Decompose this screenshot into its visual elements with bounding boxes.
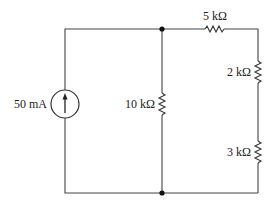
resistor-10k-label: 10 kΩ [125, 97, 155, 111]
current-source-label: 50 mA [14, 97, 47, 111]
resistor-10k-icon [159, 93, 165, 115]
left-top-wire [65, 29, 205, 90]
resistor-2k-label: 2 kΩ [227, 65, 251, 79]
top-node-dot [159, 26, 164, 31]
resistor-5k-icon [205, 26, 224, 32]
bottom-node-dot [159, 190, 164, 195]
resistor-3k-label: 3 kΩ [227, 145, 251, 159]
current-source [51, 90, 79, 118]
circuit-diagram: 50 mA 10 kΩ 5 kΩ 2 kΩ 3 kΩ [0, 0, 267, 207]
resistor-3k-icon [255, 141, 261, 163]
right-top-wire [224, 29, 258, 61]
resistor-2k-icon [255, 61, 261, 83]
resistor-5k-label: 5 kΩ [203, 9, 227, 23]
